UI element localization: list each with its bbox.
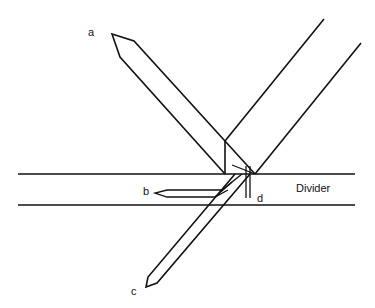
arrow-a bbox=[112, 34, 255, 174]
diagram-canvas bbox=[0, 0, 375, 308]
incoming-beam-upper-line bbox=[225, 19, 324, 141]
label-d: d bbox=[257, 193, 263, 204]
label-c: c bbox=[131, 286, 137, 297]
label-divider: Divider bbox=[296, 183, 330, 194]
incoming-beam-lower-line bbox=[255, 43, 361, 174]
label-b: b bbox=[143, 186, 149, 197]
label-a: a bbox=[88, 27, 94, 38]
